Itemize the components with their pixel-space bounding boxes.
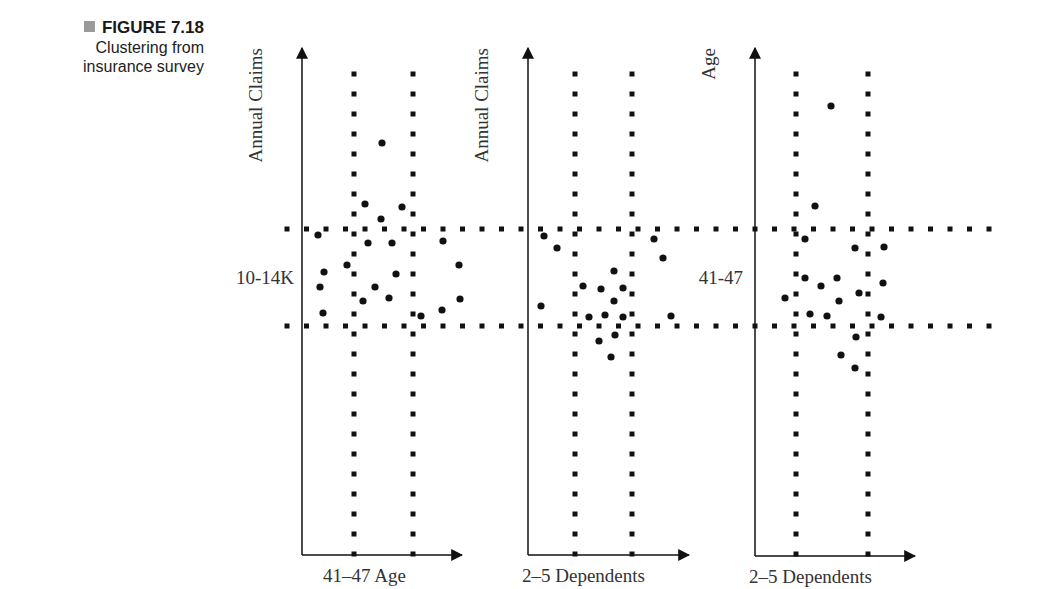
data-point (378, 139, 385, 146)
data-point (619, 284, 626, 291)
band-dot (866, 412, 871, 417)
band-dot (794, 72, 799, 77)
band-dot (714, 324, 719, 329)
band-dot (573, 72, 578, 77)
band-dot (411, 232, 416, 237)
band-dot (441, 324, 446, 329)
data-point (439, 237, 446, 244)
data-point (540, 232, 547, 239)
band-dot (352, 392, 357, 397)
band-dot (411, 392, 416, 397)
band-dot (519, 227, 524, 232)
band-dot (558, 227, 563, 232)
band-dot (573, 192, 578, 197)
x-axis-label: 2–5 Dependents (522, 565, 645, 586)
band-dot (794, 292, 799, 297)
band-dot (630, 292, 635, 297)
data-point (597, 285, 604, 292)
data-point (343, 261, 350, 268)
band-dot (538, 227, 543, 232)
band-dot (411, 512, 416, 517)
band-dot (866, 332, 871, 337)
y-axis-label: Age (698, 48, 719, 80)
data-point (855, 289, 862, 296)
band-dot (794, 152, 799, 157)
data-point (611, 331, 618, 338)
band-dot (460, 324, 465, 329)
band-dot (352, 252, 357, 257)
band-dot (573, 532, 578, 537)
band-dot (772, 227, 777, 232)
band-dot (411, 172, 416, 177)
band-dot (630, 132, 635, 137)
band-dot (866, 492, 871, 497)
band-dot (630, 432, 635, 437)
band-dot (573, 392, 578, 397)
band-dot (630, 112, 635, 117)
band-dot (733, 227, 738, 232)
band-dot (352, 112, 357, 117)
band-dot (411, 372, 416, 377)
data-point (851, 244, 858, 251)
band-dot (573, 272, 578, 277)
band-dot (352, 172, 357, 177)
band-dot (630, 472, 635, 477)
band-dot (421, 227, 426, 232)
scatter-panels: Annual Claims41–47 Age10-14KAnnual Claim… (236, 48, 915, 587)
data-point (392, 270, 399, 277)
band-dot (889, 227, 894, 232)
band-dot (363, 227, 368, 232)
clustering-plots: Annual Claims41–47 Age10-14KAnnual Claim… (0, 0, 1040, 589)
data-point (601, 311, 608, 318)
band-dot (480, 324, 485, 329)
band-dot (792, 324, 797, 329)
band-dot (866, 372, 871, 377)
data-point (388, 239, 395, 246)
band-dot (794, 352, 799, 357)
band-dot (866, 92, 871, 97)
band-dot (573, 232, 578, 237)
band-dot (948, 324, 953, 329)
data-point (398, 203, 405, 210)
band-dot (987, 324, 992, 329)
band-dot (794, 92, 799, 97)
band-dot (866, 232, 871, 237)
band-dot (794, 112, 799, 117)
band-dot (630, 412, 635, 417)
band-dot (675, 324, 680, 329)
band-dot (411, 72, 416, 77)
band-dot (866, 252, 871, 257)
band-dot (519, 324, 524, 329)
band-dot (866, 512, 871, 517)
band-dot (577, 227, 582, 232)
band-dot (630, 252, 635, 257)
band-dot (343, 227, 348, 232)
band-dot (411, 432, 416, 437)
band-dot (811, 227, 816, 232)
band-dot (402, 324, 407, 329)
band-dot (573, 92, 578, 97)
band-dot (794, 492, 799, 497)
band-dot (866, 392, 871, 397)
data-point (781, 294, 788, 301)
scatter-panel-1: Annual Claims41–47 Age10-14K (236, 48, 464, 586)
band-dot (411, 532, 416, 537)
scatter-panel-2: Annual Claims2–5 Dependents (471, 48, 689, 586)
band-dot (573, 172, 578, 177)
band-dot (460, 227, 465, 232)
data-point (537, 302, 544, 309)
band-dot (352, 512, 357, 517)
data-point (377, 215, 384, 222)
band-dot (352, 212, 357, 217)
y-axis-label: Annual Claims (471, 48, 492, 163)
band-dot (411, 92, 416, 97)
band-dot (928, 227, 933, 232)
band-dot (411, 252, 416, 257)
data-point (456, 295, 463, 302)
band-dot (411, 492, 416, 497)
band-dot (909, 324, 914, 329)
band-dot (411, 292, 416, 297)
band-dot (866, 292, 871, 297)
data-point (314, 231, 321, 238)
data-point (817, 282, 824, 289)
